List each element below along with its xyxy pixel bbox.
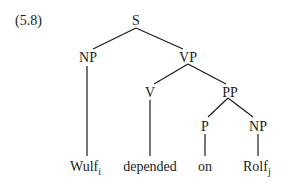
leaf-rolf-text: Rolf — [243, 159, 268, 174]
leaf-rolf-subscript: j — [267, 166, 271, 177]
syntax-tree-diagram: (5.8) S NP VP V PP P NP Wulfi depended o… — [0, 0, 290, 186]
leaf-depended: depended — [123, 159, 177, 174]
node-pp: PP — [222, 85, 238, 100]
edge-pp-np — [228, 98, 253, 117]
node-v: V — [145, 85, 155, 100]
leaf-rolf: Rolfj — [243, 159, 271, 177]
node-np-subject: NP — [79, 50, 97, 65]
leaf-on: on — [198, 159, 212, 174]
leaf-wulf-subscript: i — [98, 166, 101, 177]
leaf-wulf: Wulfi — [70, 159, 101, 177]
example-number: (5.8) — [15, 13, 42, 29]
node-vp: VP — [179, 50, 197, 65]
node-s: S — [132, 13, 140, 28]
edge-vp-v — [154, 64, 188, 84]
edge-s-vp — [136, 28, 183, 49]
leaf-wulf-text: Wulf — [70, 159, 99, 174]
edge-vp-pp — [188, 64, 226, 84]
node-np-object: NP — [249, 119, 267, 134]
edge-pp-p — [208, 98, 228, 117]
node-p: P — [201, 119, 209, 134]
edge-s-np — [93, 28, 136, 49]
